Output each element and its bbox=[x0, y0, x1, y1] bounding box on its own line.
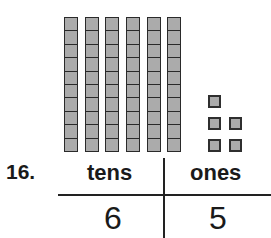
tens-rod bbox=[85, 17, 99, 152]
tens-rod bbox=[147, 17, 161, 152]
ones-answer: 5 bbox=[209, 200, 227, 237]
tens-rod bbox=[105, 17, 119, 152]
tens-answer: 6 bbox=[104, 200, 122, 237]
tens-rod bbox=[64, 17, 78, 152]
ones-cube bbox=[208, 117, 221, 130]
problem-number: 16. bbox=[6, 160, 35, 184]
ones-header: ones bbox=[190, 160, 241, 186]
tens-header: tens bbox=[87, 160, 132, 186]
tens-rod bbox=[167, 17, 181, 152]
ones-cube bbox=[208, 139, 221, 152]
ones-cube bbox=[229, 139, 242, 152]
ones-cube bbox=[229, 117, 242, 130]
chart-vertical-divider bbox=[163, 158, 165, 238]
tens-rod bbox=[126, 17, 140, 152]
ones-cube bbox=[208, 95, 221, 108]
